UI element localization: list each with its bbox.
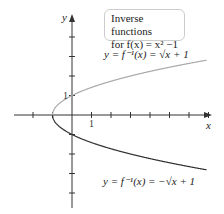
chart-figure: Inverse functions for f(x) = x² −1 y = f…	[0, 0, 224, 214]
lower-curve-label: y = f⁻¹(x) = −√x + 1	[103, 175, 195, 188]
x-tick-label: 1	[89, 118, 94, 129]
x-axis-label: x	[206, 119, 211, 131]
y-axis-label: y	[62, 11, 67, 23]
upper-curve-label: y = f⁻¹(x) = √x + 1	[104, 48, 189, 61]
title-line-1: Inverse functions	[111, 12, 184, 38]
y-tick-label: 1	[63, 90, 68, 101]
title-box: Inverse functions for f(x) = x² −1	[104, 9, 185, 41]
